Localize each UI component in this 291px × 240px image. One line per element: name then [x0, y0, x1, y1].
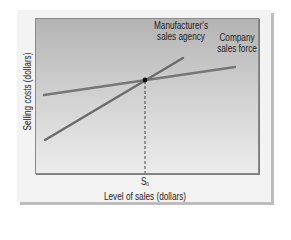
y-axis-label: Selling costs (dollars) — [22, 46, 33, 136]
company-sales-force-line — [44, 67, 235, 95]
s0-subscript: 0 — [146, 181, 149, 187]
agency-label-line2: sales agency — [152, 31, 209, 42]
company-label-line1: Company — [215, 32, 259, 43]
manufacturers-sales-agency-line — [45, 58, 183, 140]
agency-label-line1: Manufacturer's — [152, 20, 209, 31]
company-line-label: Company sales force — [215, 32, 259, 54]
break-even-point — [143, 78, 148, 83]
company-label-line2: sales force — [215, 43, 259, 54]
agency-line-label: Manufacturer's sales agency — [152, 20, 209, 42]
x-axis-label: Level of sales (dollars) — [104, 191, 186, 202]
s0-tick-label: S0 — [138, 176, 151, 190]
